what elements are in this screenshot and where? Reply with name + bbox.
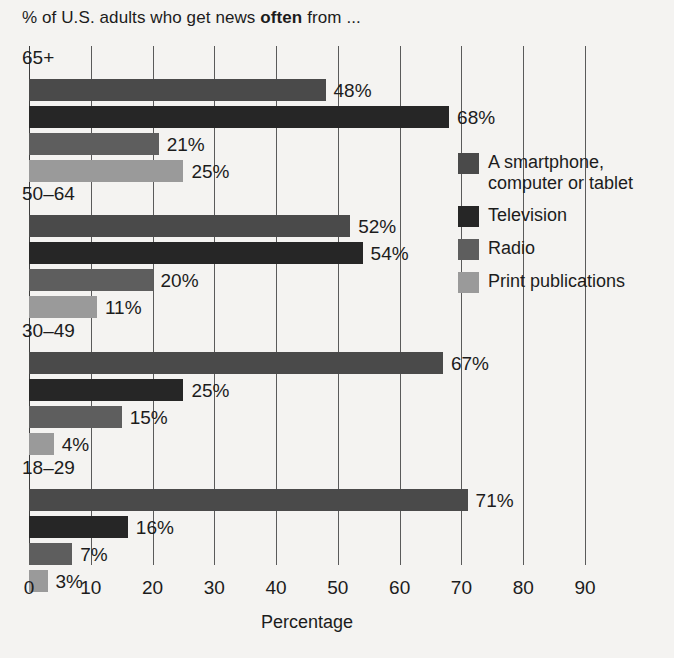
legend-swatch-icon xyxy=(458,206,479,227)
x-tick-label-60: 60 xyxy=(389,578,410,597)
bar-value-label: 21% xyxy=(167,135,205,154)
legend-item[interactable]: A smartphone, computer or tablet xyxy=(458,152,670,194)
bar-value-label: 4% xyxy=(62,435,89,454)
bar[interactable] xyxy=(29,433,54,455)
chart-title-tail: from ... xyxy=(302,8,361,27)
bar-row: 15% xyxy=(29,406,585,428)
bar[interactable] xyxy=(29,296,97,318)
bar-group-18-29: 18–2971%16%7%3% xyxy=(29,459,585,597)
chart-legend: A smartphone, computer or tabletTelevisi… xyxy=(458,152,670,304)
bar[interactable] xyxy=(29,106,449,128)
legend-label: Radio xyxy=(488,238,535,259)
bar-value-label: 71% xyxy=(476,491,514,510)
bar-row: 4% xyxy=(29,433,585,455)
legend-label: A smartphone, computer or tablet xyxy=(488,152,670,194)
bar-value-label: 25% xyxy=(191,162,229,181)
bar[interactable] xyxy=(29,133,159,155)
bar-value-label: 11% xyxy=(105,298,142,317)
bar-chart: % of U.S. adults who get news often from… xyxy=(0,0,674,658)
legend-swatch-icon xyxy=(458,272,479,293)
bar-value-label: 16% xyxy=(136,518,174,537)
bar-value-label: 20% xyxy=(161,271,199,290)
legend-swatch-icon xyxy=(458,239,479,260)
x-tick-label-80: 80 xyxy=(513,578,534,597)
legend-label: Print publications xyxy=(488,271,625,292)
bar[interactable] xyxy=(29,516,128,538)
bar[interactable] xyxy=(29,406,122,428)
x-tick-label-90: 90 xyxy=(574,578,595,597)
bar[interactable] xyxy=(29,242,363,264)
legend-label: Television xyxy=(488,205,567,226)
x-tick-label-50: 50 xyxy=(327,578,348,597)
bar[interactable] xyxy=(29,379,183,401)
bar-row: 48% xyxy=(29,79,585,101)
x-axis-ticks: 0102030405060708090 xyxy=(29,578,585,604)
bar[interactable] xyxy=(29,160,183,182)
bar-groups: 65+48%68%21%25%50–6452%54%20%11%30–4967%… xyxy=(29,46,585,565)
bar-row: 71% xyxy=(29,489,585,511)
bar-row: 7% xyxy=(29,543,585,565)
gridline-90 xyxy=(585,46,586,565)
chart-title-emphasis: often xyxy=(260,8,302,27)
bar-value-label: 68% xyxy=(457,108,495,127)
plot-area: 65+48%68%21%25%50–6452%54%20%11%30–4967%… xyxy=(29,46,585,565)
x-tick-label-40: 40 xyxy=(266,578,287,597)
group-label: 18–29 xyxy=(22,458,75,477)
bar-group-30-49: 30–4967%25%15%4% xyxy=(29,322,585,460)
chart-title-plain: % of U.S. adults who get news xyxy=(22,8,260,27)
bar-value-label: 7% xyxy=(80,545,107,564)
bar[interactable] xyxy=(29,543,72,565)
x-tick-label-0: 0 xyxy=(24,578,35,597)
legend-swatch-icon xyxy=(458,153,479,174)
bar-value-label: 52% xyxy=(358,217,396,236)
group-label: 50–64 xyxy=(22,184,75,203)
bar[interactable] xyxy=(29,352,443,374)
bar-row: 67% xyxy=(29,352,585,374)
legend-item[interactable]: Print publications xyxy=(458,271,670,293)
x-tick-label-20: 20 xyxy=(142,578,163,597)
group-label: 65+ xyxy=(22,48,54,67)
bar[interactable] xyxy=(29,215,350,237)
x-tick-label-10: 10 xyxy=(80,578,101,597)
legend-item[interactable]: Television xyxy=(458,205,670,227)
x-tick-label-30: 30 xyxy=(204,578,225,597)
x-axis-title: Percentage xyxy=(29,612,585,633)
group-label: 30–49 xyxy=(22,321,75,340)
chart-title: % of U.S. adults who get news often from… xyxy=(22,8,361,28)
bar-value-label: 48% xyxy=(334,81,372,100)
bar-value-label: 54% xyxy=(371,244,409,263)
bar-row: 25% xyxy=(29,379,585,401)
bar-value-label: 67% xyxy=(451,354,489,373)
bar-value-label: 25% xyxy=(191,381,229,400)
bar[interactable] xyxy=(29,489,468,511)
x-tick-label-70: 70 xyxy=(451,578,472,597)
bar-row: 68% xyxy=(29,106,585,128)
bar[interactable] xyxy=(29,79,326,101)
bar-value-label: 15% xyxy=(130,408,168,427)
legend-item[interactable]: Radio xyxy=(458,238,670,260)
bar[interactable] xyxy=(29,269,153,291)
bar-row: 16% xyxy=(29,516,585,538)
